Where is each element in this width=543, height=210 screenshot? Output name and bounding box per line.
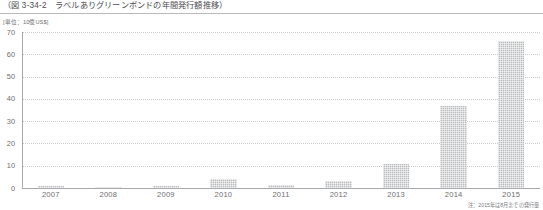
bar-2010 — [210, 179, 236, 188]
bar-series — [22, 32, 540, 188]
y-tick-label-40: 40 — [0, 95, 15, 102]
bar-2007 — [38, 186, 64, 188]
x-tick-label-2007: 2007 — [22, 190, 80, 199]
x-tick-label-2010: 2010 — [195, 190, 253, 199]
x-tick-label-2012: 2012 — [310, 190, 368, 199]
x-tick-label-2009: 2009 — [137, 190, 195, 199]
bar-2012 — [325, 181, 351, 188]
x-axis-ticks: 200720082009201020112012201320142015 — [22, 190, 540, 202]
bar-2009 — [153, 186, 179, 188]
chart-footnote: 注：2015年は8月までの発行量 — [468, 201, 539, 208]
y-tick-label-20: 20 — [0, 140, 15, 147]
y-axis-unit-label: [単位：10億US$] — [3, 18, 48, 26]
x-tick-label-2011: 2011 — [252, 190, 310, 199]
bar-2015 — [498, 41, 524, 188]
title-divider — [0, 13, 543, 14]
y-tick-label-30: 30 — [0, 118, 15, 125]
x-tick-label-2015: 2015 — [482, 190, 540, 199]
bar-2011 — [268, 185, 294, 188]
x-tick-label-2008: 2008 — [80, 190, 138, 199]
x-tick-label-2014: 2014 — [425, 190, 483, 199]
y-tick-label-60: 60 — [0, 51, 15, 58]
bar-2013 — [383, 164, 409, 189]
gridline-0 — [22, 188, 540, 189]
bar-2014 — [440, 106, 466, 188]
y-tick-label-10: 10 — [0, 162, 15, 169]
page-title: （図 3-34-2 ラベルありグリーンボンドの年間発行額推移） — [3, 1, 227, 11]
y-tick-label-50: 50 — [0, 73, 15, 80]
y-tick-label-0: 0 — [0, 185, 15, 192]
bar-2008 — [95, 187, 121, 188]
x-tick-label-2013: 2013 — [367, 190, 425, 199]
y-tick-label-70: 70 — [0, 29, 15, 36]
